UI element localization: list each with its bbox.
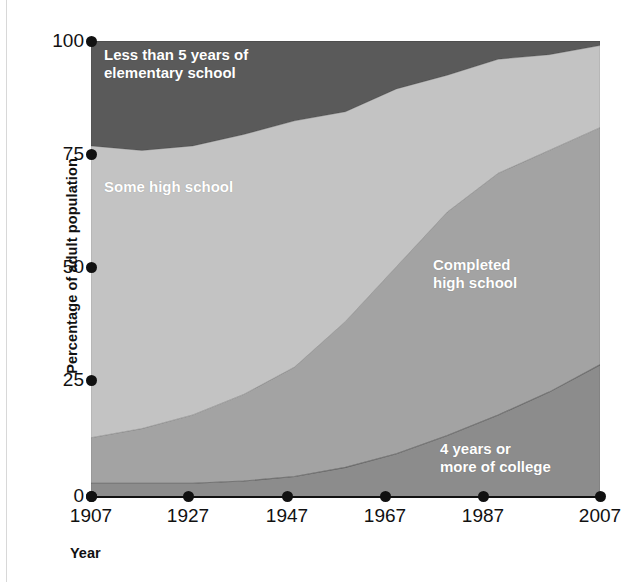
y-tick-dot-25 <box>86 375 97 386</box>
band-label-4-years-or-more-college: 4 years or more of college <box>440 440 551 475</box>
x-tick-label-1967: 1967 <box>345 505 425 527</box>
x-tick-dot-1947 <box>282 491 293 502</box>
stacked-area-chart: Less than 5 years of elementary school S… <box>0 0 640 582</box>
x-tick-label-1947: 1947 <box>247 505 327 527</box>
x-tick-dot-1987 <box>478 491 489 502</box>
x-tick-dot-1967 <box>380 491 391 502</box>
x-tick-label-1987: 1987 <box>443 505 523 527</box>
y-tick-dot-75 <box>86 149 97 160</box>
y-tick-dot-50 <box>86 262 97 273</box>
x-tick-label-1927: 1927 <box>148 505 228 527</box>
y-tick-label-75: 75 <box>38 143 84 165</box>
y-tick-label-25: 25 <box>38 369 84 391</box>
x-tick-label-2007: 2007 <box>560 505 640 527</box>
x-tick-label-1907: 1907 <box>51 505 131 527</box>
y-tick-dot-100 <box>86 36 97 47</box>
x-tick-dot-1927 <box>183 491 194 502</box>
x-axis-title: Year <box>70 545 101 561</box>
band-label-completed-high-school: Completed high school <box>433 256 517 291</box>
y-tick-label-50: 50 <box>38 256 84 278</box>
band-label-some-high-school: Some high school <box>104 178 233 196</box>
y-tick-label-0: 0 <box>38 485 84 507</box>
y-tick-label-100: 100 <box>38 30 84 52</box>
x-tick-dot-1907 <box>86 491 97 502</box>
x-tick-dot-2007 <box>595 491 606 502</box>
x-axis-line <box>91 496 601 498</box>
band-label-less-than-5-years-elementary: Less than 5 years of elementary school <box>104 46 248 81</box>
